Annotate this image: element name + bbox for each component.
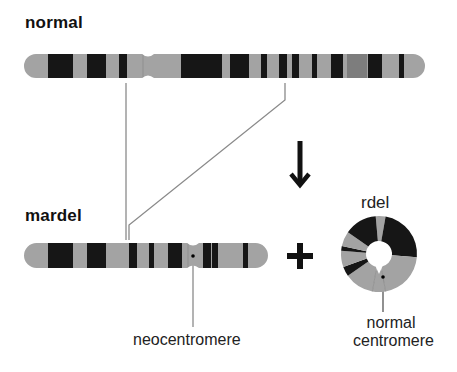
ring-band (381, 217, 417, 258)
chromosome-band (149, 241, 154, 270)
chromosome-diagram (0, 0, 457, 372)
chromosome-band (292, 52, 299, 80)
chromosome-band (261, 52, 267, 80)
chromosome-band (279, 52, 287, 80)
chromosome-band (48, 241, 73, 270)
chromosome-band (212, 241, 218, 270)
chromosome-band (168, 241, 182, 270)
mardel-chromosome (24, 241, 268, 270)
chromosome-band (230, 52, 249, 80)
chromosome-band (181, 52, 222, 80)
chromosome-band (368, 52, 382, 80)
connector-line-diagonal (129, 83, 285, 240)
chromosome-band (243, 241, 248, 270)
normal-centromere-dot (381, 275, 385, 279)
ring-chromosome-rdel (341, 216, 417, 292)
neocentromere-dot (191, 254, 195, 258)
chromosome-band (48, 52, 73, 80)
chromosome-band (87, 241, 106, 270)
chromosome-band (399, 52, 404, 80)
normal-chromosome (24, 52, 425, 80)
chromosome-band (312, 52, 317, 80)
chromosome-band (347, 52, 367, 80)
chromosome-band (331, 52, 343, 80)
chromosome-band (203, 241, 211, 270)
down-arrow-icon (291, 141, 309, 185)
chromosome-band (87, 52, 106, 80)
plus-icon (287, 243, 313, 269)
ring-band (381, 255, 417, 291)
chromosome-band (119, 52, 127, 80)
chromosome-band (129, 241, 137, 270)
connector-lines (126, 83, 383, 327)
